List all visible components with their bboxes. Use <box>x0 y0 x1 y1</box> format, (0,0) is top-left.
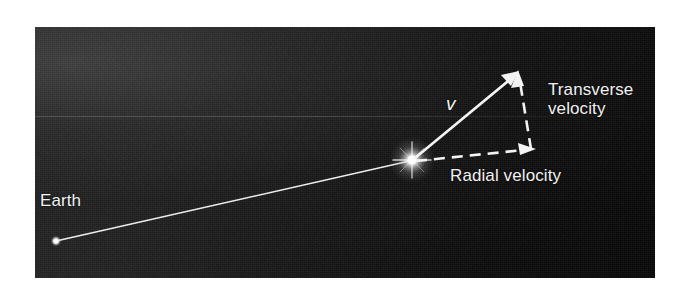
radial-velocity-label: Radial velocity <box>450 166 561 185</box>
space-velocity-vector-shaft <box>415 77 513 158</box>
velocity-components-figure: Earth v Transversevelocity Radial veloci… <box>0 0 687 294</box>
velocity-symbol-label: v <box>446 94 456 113</box>
vector-diagram <box>35 27 655 278</box>
radial-velocity-arrowhead <box>518 143 536 155</box>
transverse-velocity-label-line2: velocity <box>548 99 606 118</box>
earth-label: Earth <box>40 191 81 210</box>
transverse-velocity-label: Transversevelocity <box>548 80 633 118</box>
sky-panel: Earth v Transversevelocity Radial veloci… <box>35 27 655 278</box>
transverse-velocity-vector-shaft <box>520 82 531 149</box>
earth-marker-core <box>53 238 58 243</box>
line-of-sight <box>56 160 414 241</box>
transverse-velocity-label-line1: Transverse <box>548 80 633 99</box>
